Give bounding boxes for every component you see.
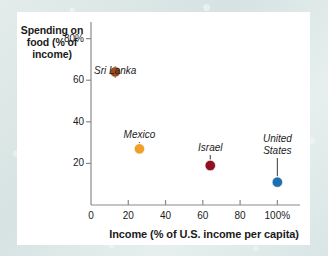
y-axis-tick-label: 40 [40, 116, 84, 127]
data-point-united-states[interactable] [272, 177, 282, 187]
data-point-mexico[interactable] [134, 144, 144, 154]
x-axis-tick-label: 80 [220, 210, 260, 221]
x-axis-tick-label: 100% [257, 210, 297, 221]
x-axis-tick-label: 40 [146, 210, 186, 221]
x-axis-title: Income (% of U.S. income per capita) [96, 228, 312, 240]
x-axis-tick-label: 60 [183, 210, 223, 221]
point-label-line: States [232, 145, 322, 157]
y-axis-title-line: income) [14, 48, 90, 60]
point-label-line: Mexico [94, 129, 184, 141]
point-label-line: United [232, 133, 322, 145]
x-axis-tick-label: 0 [71, 210, 111, 221]
y-axis-tick-label: 20 [40, 157, 84, 168]
point-label-sri-lanka: Sri Lanka [70, 65, 160, 77]
point-label-line: Sri Lanka [70, 65, 160, 77]
y-axis-tick-label: 80% [40, 33, 84, 44]
point-label-united-states: UnitedStates [232, 133, 322, 156]
data-point-israel[interactable] [205, 160, 215, 170]
x-axis-tick-label: 20 [108, 210, 148, 221]
point-label-mexico: Mexico [94, 129, 184, 141]
